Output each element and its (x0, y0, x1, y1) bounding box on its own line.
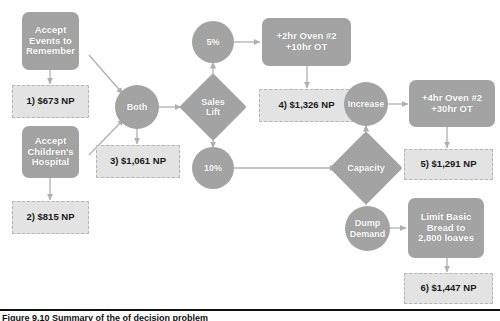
node-label-line: Demand (350, 229, 386, 239)
result-box-1[interactable]: 1) $673 NP (12, 85, 89, 118)
result-box-6[interactable]: 6) $1,447 NP (404, 273, 493, 304)
node-accept-events-to-remember[interactable]: Accept Events to Remember (22, 12, 79, 70)
node-label-line: +2hr Oven #2 (277, 30, 337, 41)
result-label: 2) $815 NP (26, 212, 74, 223)
node-10-percent[interactable]: 10% (192, 147, 234, 189)
node-label: Sales Lift (189, 83, 237, 131)
node-label-line: Lift (206, 107, 220, 117)
result-label: 5) $1,291 NP (421, 159, 477, 170)
node-label-line: Sales (201, 97, 225, 107)
node-label-line: +4hr Oven #2 (422, 92, 482, 103)
result-box-4[interactable]: 4) $1,326 NP (259, 89, 354, 122)
result-box-3[interactable]: 3) $1,061 NP (96, 145, 180, 178)
node-label-line: Dump (355, 218, 381, 228)
result-label: 6) $1,447 NP (421, 283, 477, 294)
node-label-line: Capacity (347, 163, 385, 173)
node-capacity[interactable]: Capacity (340, 142, 392, 194)
node-sales-lift[interactable]: Sales Lift (189, 83, 237, 131)
node-label-line: Limit Basic (421, 211, 472, 222)
node-plus-2hr-oven[interactable]: +2hr Oven #2 +10hr OT (262, 18, 351, 66)
figure-caption-text: Figure 9.10 Summary of the of decision p… (0, 313, 500, 321)
node-label: Increase (348, 99, 385, 109)
result-box-2[interactable]: 2) $815 NP (12, 201, 89, 234)
node-label-line: Events to (29, 35, 72, 46)
diagram-canvas: Accept Events to Remember 1) $673 NP Acc… (0, 0, 500, 321)
node-label-line: Bread to (427, 222, 466, 233)
figure-caption: Figure 9.10 Summary of the of decision p… (0, 309, 500, 321)
node-label: 10% (204, 163, 222, 173)
node-label: Both (127, 102, 148, 112)
node-label: 5% (206, 37, 219, 47)
node-label-line: 2,800 loaves (418, 232, 474, 243)
node-label-line: Accept (35, 24, 67, 35)
node-label-line: Remember (26, 45, 75, 56)
result-label: 3) $1,061 NP (110, 156, 166, 167)
node-label-line: Children's (27, 146, 73, 157)
node-dump-demand[interactable]: Dump Demand (345, 206, 390, 251)
result-box-5[interactable]: 5) $1,291 NP (404, 149, 493, 180)
result-label: 4) $1,326 NP (279, 100, 335, 111)
node-label: Capacity (340, 142, 392, 194)
node-label-line: +30hr OT (431, 103, 472, 114)
node-label-line: Accept (35, 135, 67, 146)
result-label: 1) $673 NP (26, 96, 74, 107)
node-plus-4hr-oven[interactable]: +4hr Oven #2 +30hr OT (409, 80, 495, 127)
node-increase[interactable]: Increase (344, 82, 388, 126)
node-accept-childrens-hospital[interactable]: Accept Children's Hospital (22, 126, 79, 178)
node-5-percent[interactable]: 5% (192, 21, 234, 63)
node-label-line: +10hr OT (286, 41, 327, 52)
node-label-line: Hospital (32, 156, 69, 167)
edge-accept-events-to-both (89, 55, 123, 94)
node-both[interactable]: Both (115, 85, 159, 129)
node-limit-basic-bread[interactable]: Limit Basic Bread to 2,800 loaves (408, 198, 484, 258)
